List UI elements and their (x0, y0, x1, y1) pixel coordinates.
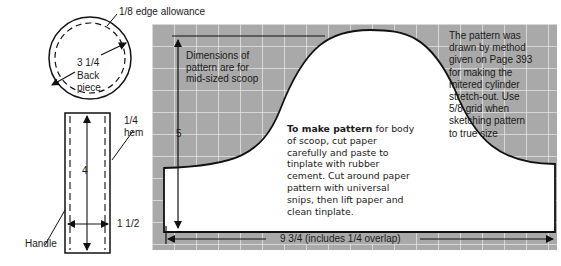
instructions-line: tinplate with rubber (287, 158, 414, 170)
diameter-arrow-upper (101, 43, 126, 55)
instructions-line: for body (373, 123, 415, 134)
method-note-line: stretch-out. Use (449, 91, 532, 103)
instructions-line: cement. Cut around paper (287, 170, 414, 182)
dimensions-note-line: Dimensions of (186, 50, 258, 62)
method-note-line: for making the (449, 67, 532, 79)
handle-name-label: Handle (25, 238, 57, 249)
method-note-line: mitered cylinder (449, 79, 532, 91)
dimensions-note: Dimensions of pattern are for mid-sized … (186, 50, 258, 85)
method-note-line: to true size (449, 128, 532, 140)
diameter-arrow-lower (52, 72, 75, 85)
instructions-text: To make pattern for body of scoop, cut p… (287, 123, 414, 217)
back-piece-name-line2: piece (77, 82, 101, 93)
handle-length-label: 4 (82, 165, 88, 176)
method-note-line: 5/8 grid when (449, 103, 532, 115)
method-note-line: sketching pattern (449, 115, 532, 127)
instructions-line: clean tinplate. (287, 206, 414, 218)
instructions-line: carefully and paste to (287, 147, 414, 159)
dimensions-note-line: mid-sized scoop (186, 73, 258, 85)
instructions-line: of scoop, cut paper (287, 135, 414, 147)
dimensions-note-line: pattern are for (186, 62, 258, 74)
back-piece-diameter-label: 3 1/4 (77, 57, 99, 68)
instructions-line: snips, then lift paper and (287, 194, 414, 206)
method-note-line: drawn by method (449, 42, 532, 54)
handle-width-label: 1 1/2 (117, 218, 139, 229)
method-note: The pattern was drawn by method given on… (449, 30, 532, 140)
hem-label-line2: hem (124, 127, 143, 138)
method-note-line: The pattern was (449, 30, 532, 42)
hem-label-line1: 1/4 (124, 115, 138, 126)
edge-allowance-label: 1/8 edge allowance (119, 6, 205, 17)
instructions-line: pattern with universal (287, 182, 414, 194)
method-note-line: given on Page 393 (449, 54, 532, 66)
back-piece-name-line1: Back (77, 70, 99, 81)
width-label: 9 3/4 (includes 1/4 overlap) (278, 233, 403, 244)
height-label: 5 (176, 128, 182, 139)
instructions-heading: To make pattern (287, 123, 373, 134)
